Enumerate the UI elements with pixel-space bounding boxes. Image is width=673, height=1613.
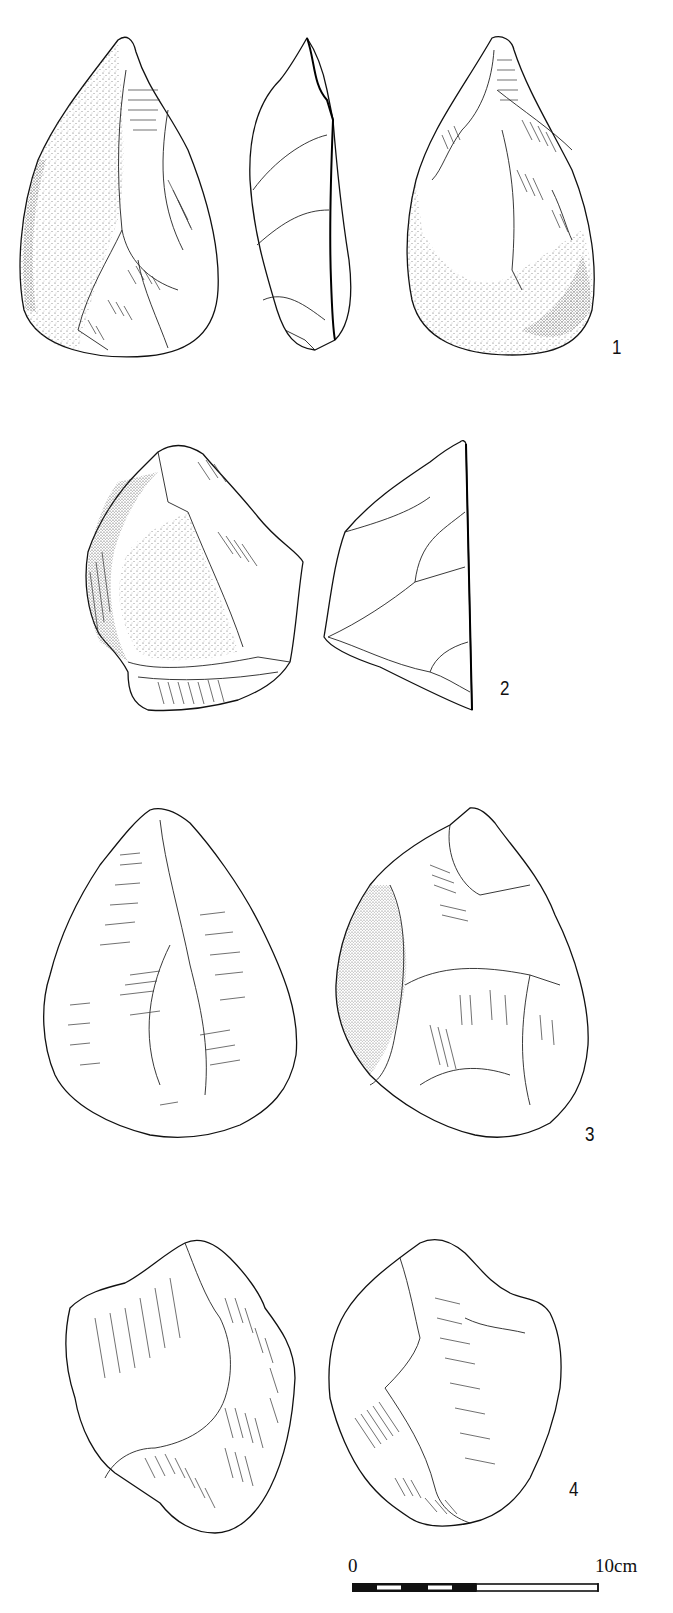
scale-end-label: 10cm [595, 1555, 637, 1577]
scale-bar: 0 10cm [352, 1555, 602, 1595]
figure-label-2: 2 [500, 677, 509, 700]
illustration-plate: 1 2 [0, 0, 673, 1613]
artifact-1-face-a [18, 30, 233, 360]
artifact-4-face-b [325, 1238, 580, 1538]
artifact-1-face-b [402, 30, 602, 360]
figure-label-4: 4 [569, 1478, 578, 1501]
figure-label-3: 3 [585, 1123, 594, 1146]
artifact-3-face-a [40, 805, 305, 1140]
artifact-2-profile [320, 432, 490, 714]
figure-label-1: 1 [612, 336, 621, 359]
artifact-4-face-a [55, 1238, 305, 1536]
artifact-2-face-a [58, 432, 303, 714]
scale-bar-graphic [352, 1583, 600, 1592]
artifact-1-profile [245, 30, 360, 355]
artifact-3-face-b [330, 805, 600, 1140]
scale-start-label: 0 [348, 1555, 358, 1577]
